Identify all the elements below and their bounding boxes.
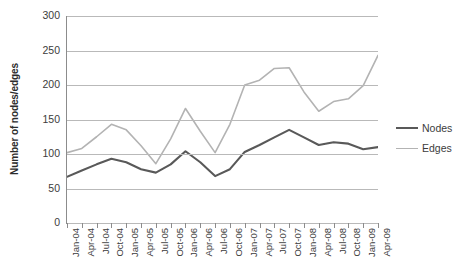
- x-axis-tick-label: Jul-08: [338, 228, 348, 274]
- y-axis-tick-label: 50: [22, 183, 60, 194]
- x-axis-tick-label: Jul-07: [278, 228, 288, 274]
- x-axis-tick: [82, 223, 83, 228]
- x-axis-tick: [334, 223, 335, 228]
- x-axis-tick-label: Jan-06: [189, 228, 199, 274]
- x-axis-tick-label: Apr-07: [264, 228, 274, 274]
- y-axis-title: Number of nodes/edges: [3, 8, 25, 230]
- gridline: [67, 189, 378, 190]
- x-axis-tick: [378, 223, 379, 228]
- gridline: [67, 223, 378, 224]
- x-axis-tick: [274, 223, 275, 228]
- x-axis-tick: [156, 223, 157, 228]
- x-axis-tick-label: Apr-08: [323, 228, 333, 274]
- legend-item-nodes[interactable]: Nodes: [396, 118, 464, 138]
- x-axis-tick-label: Oct-06: [234, 228, 244, 274]
- x-axis-tick: [67, 223, 68, 228]
- x-axis-tick: [215, 223, 216, 228]
- x-axis-tick: [289, 223, 290, 228]
- x-axis-tick-label: Jul-04: [101, 228, 111, 274]
- x-axis-tick: [363, 223, 364, 228]
- x-axis-tick-label: Oct-04: [115, 228, 125, 274]
- x-axis-tick-label: Oct-07: [293, 228, 303, 274]
- gridline: [67, 120, 378, 121]
- x-axis-tick: [319, 223, 320, 228]
- chart-legend: NodesEdges: [396, 118, 464, 158]
- x-axis-tick-label: Jan-04: [71, 228, 81, 274]
- x-axis-tick-label: Apr-06: [204, 228, 214, 274]
- x-axis-tick-label: Jan-08: [308, 228, 318, 274]
- y-axis-tick-label: 200: [22, 79, 60, 90]
- x-axis-tick-label: Oct-05: [175, 228, 185, 274]
- y-axis-tick-label: 0: [22, 217, 60, 228]
- x-axis-tick: [348, 223, 349, 228]
- legend-swatch-nodes-icon: [396, 127, 418, 129]
- legend-label: Edges: [422, 142, 452, 154]
- x-axis-tick-label: Jul-06: [219, 228, 229, 274]
- legend-swatch-edges-icon: [396, 148, 418, 149]
- x-axis-tick-label: Jan-09: [367, 228, 377, 274]
- gridline: [67, 85, 378, 86]
- x-axis-tick: [230, 223, 231, 228]
- y-axis-tick-label: 150: [22, 114, 60, 125]
- y-axis-tick-label: 250: [22, 45, 60, 56]
- series-line-edges: [67, 55, 378, 163]
- x-axis-tick: [260, 223, 261, 228]
- x-axis-tick-label: Apr-04: [86, 228, 96, 274]
- x-axis-tick: [126, 223, 127, 228]
- x-axis-tick: [141, 223, 142, 228]
- x-axis-tick-label: Jul-05: [160, 228, 170, 274]
- x-axis-tick-label: Oct-08: [352, 228, 362, 274]
- x-axis-tick: [171, 223, 172, 228]
- chart-container: Number of nodes/edges 050100150200250300…: [0, 0, 466, 278]
- x-axis-tick-label: Jan-07: [249, 228, 259, 274]
- y-axis-tick-label: 300: [22, 10, 60, 21]
- gridline: [67, 51, 378, 52]
- gridline: [67, 16, 378, 17]
- x-axis-tick: [245, 223, 246, 228]
- x-axis-tick-label: Apr-09: [382, 228, 392, 274]
- plot-area: [67, 16, 378, 223]
- x-axis-tick: [111, 223, 112, 228]
- x-axis-tick: [200, 223, 201, 228]
- x-axis-tick: [97, 223, 98, 228]
- gridline: [67, 154, 378, 155]
- legend-item-edges[interactable]: Edges: [396, 138, 464, 158]
- x-axis-tick: [185, 223, 186, 228]
- legend-label: Nodes: [422, 122, 452, 134]
- x-axis-tick-label: Jan-05: [130, 228, 140, 274]
- x-axis-tick-label: Apr-05: [145, 228, 155, 274]
- y-axis-tick-label: 100: [22, 148, 60, 159]
- x-axis-tick: [304, 223, 305, 228]
